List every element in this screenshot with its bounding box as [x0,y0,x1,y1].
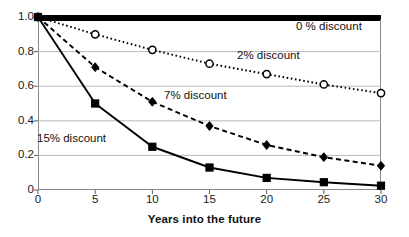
x-axis-tick-labels: 051015202530 [0,194,409,210]
x-tick-label: 5 [75,194,115,206]
x-tick-label: 10 [132,194,172,206]
series-label-7-percent: 7% discount [164,90,227,102]
data-point-marker [377,182,384,189]
data-point-marker [92,31,99,38]
y-tick-label: 1.0 [0,11,34,23]
data-point-marker [206,164,213,171]
data-point-marker [263,70,270,77]
x-tick-label: 20 [247,194,287,206]
y-tick-label: 0.8 [0,46,34,58]
x-tick-label: 15 [190,194,230,206]
series-label-0-percent: 0 % discount [296,21,362,33]
x-tick-label: 0 [18,194,58,206]
data-point-marker [263,141,270,150]
data-point-marker [206,60,213,67]
data-point-marker [149,46,156,53]
y-tick-label: 0.6 [0,80,34,92]
series-label-2-percent: 2% discount [237,50,300,62]
x-tick-label: 25 [304,194,344,206]
data-point-marker [377,90,384,97]
y-tick-label: 0.2 [0,150,34,162]
data-point-marker [320,81,327,88]
data-point-marker [320,179,327,186]
data-point-marker [149,97,156,106]
series-label-15-percent: 15% discount [37,133,106,145]
x-axis-title: Years into the future [0,213,409,225]
x-tick-label: 30 [361,194,401,206]
data-point-marker [320,153,327,162]
data-point-marker [149,143,156,150]
y-tick-label: 0.4 [0,115,34,127]
data-point-marker [92,100,99,107]
data-point-marker [377,161,384,170]
data-point-marker [34,13,41,20]
data-point-marker [206,122,213,131]
data-point-marker [263,174,270,181]
discount-decay-chart: 00.20.40.60.81.0 051015202530 Years into… [0,0,409,237]
